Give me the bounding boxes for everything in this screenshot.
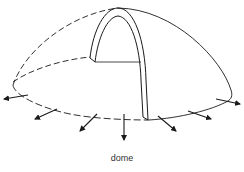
arrow-icon — [4, 95, 28, 99]
dome-outline — [13, 8, 232, 120]
front-rim-right — [149, 101, 228, 120]
arch — [90, 8, 148, 120]
back-rim — [13, 57, 90, 82]
arch-outer — [90, 8, 148, 120]
front-rim-left — [13, 85, 149, 120]
arrow-icon — [216, 99, 240, 104]
arch-base-left — [90, 58, 95, 62]
thrust-arrows — [4, 95, 240, 140]
arch-inner — [95, 16, 143, 117]
dome-diagram — [0, 0, 244, 172]
arrow-icon — [35, 109, 57, 119]
figure-caption: dome — [0, 153, 244, 163]
